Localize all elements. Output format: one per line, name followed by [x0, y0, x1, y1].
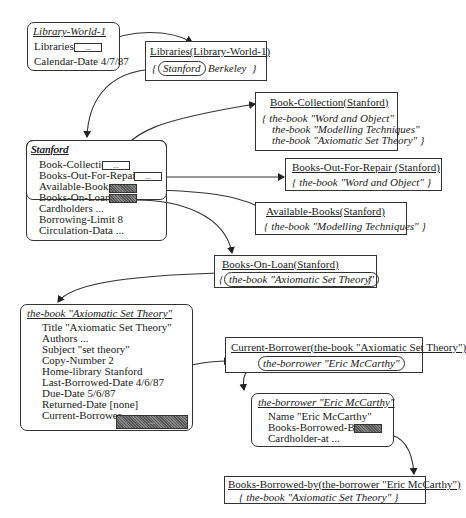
books-borrowed-by-pointer[interactable] — [354, 424, 382, 433]
current-borrower-pointer[interactable]: ... — [116, 415, 188, 429]
libraries-collection: Libraries(Library-World-1) { Stanford Be… — [145, 41, 267, 81]
collection-title: Books-Out-For-Repair (Stanford) — [292, 161, 440, 173]
borrower-frame: the-borrower "Eric McCarthy" Name "Eric … — [251, 393, 394, 447]
library-world-frame: Library-World-1 Libraries ... Calendar-D… — [27, 22, 120, 71]
frame-title: the-borrower "Eric McCarthy" — [258, 396, 395, 408]
collection-title: Book-Collection(Stanford) — [270, 96, 389, 108]
collection-item[interactable]: the-borrower "Eric McCarthy" — [258, 356, 405, 371]
slot-libraries: Libraries — [34, 40, 74, 53]
libraries-pointer[interactable]: ... — [74, 43, 102, 52]
books-on-loan-box: Books-On-Loan(Stanford) { the-book "Axio… — [214, 255, 377, 288]
collection-title: Books-Borrowed-by(the-borrower "Eric McC… — [228, 478, 461, 490]
collection-item-berkeley[interactable]: Berkeley — [208, 62, 246, 75]
book-frame: the-book "Axiomatic Set Theory" Title "A… — [20, 304, 193, 431]
collection-item[interactable]: the-book "Axiomatic Set Theory" } — [272, 134, 424, 147]
available-books-pointer[interactable] — [109, 184, 137, 193]
collection-item-stanford[interactable]: Stanford — [158, 61, 206, 76]
collection-title: Libraries(Library-World-1) — [150, 45, 270, 57]
close-brace: } — [367, 273, 371, 286]
slot-calendar-date: Calendar-Date 4/7/87 — [34, 55, 129, 68]
books-out-for-repair-box: Books-Out-For-Repair (Stanford) { the-bo… — [285, 158, 442, 191]
available-books-box: Available-Books(Stanford) { the-book "Mo… — [255, 202, 407, 235]
frame-title: the-book "Axiomatic Set Theory" — [27, 307, 172, 319]
books-on-loan-pointer[interactable] — [109, 194, 137, 203]
slot-current-borrower: Current-Borrower — [42, 409, 121, 422]
slot-circulation-data: Circulation-Data ... — [39, 224, 124, 237]
collection-item[interactable]: the-book "Axiomatic Set Theory" — [224, 272, 379, 287]
slot-cardholder-at: Cardholder-at ... — [268, 432, 340, 445]
collection-title: Books-On-Loan(Stanford) — [222, 258, 339, 270]
collection-title: Available-Books(Stanford) — [266, 205, 385, 217]
open-brace: { — [219, 273, 223, 286]
repair-pointer[interactable]: ... — [134, 172, 162, 181]
stanford-frame-body: Stanford Book-Collection ... Books-Out-F… — [26, 140, 167, 241]
open-brace: { — [152, 62, 156, 75]
frame-title: Stanford — [31, 143, 69, 155]
books-borrowed-by-box: Books-Borrowed-by(the-borrower "Eric McC… — [224, 476, 426, 504]
book-collection-box: Book-Collection(Stanford) { the-book "Wo… — [255, 92, 398, 151]
current-borrower-box: Current-Borrower(the-book "Axiomatic Set… — [225, 337, 423, 373]
collection-item[interactable]: { the-book "Axiomatic Set Theory" } — [239, 491, 398, 504]
collection-title: Current-Borrower(the-book "Axiomatic Set… — [231, 341, 466, 353]
collection-item[interactable]: { the-book "Modelling Techniques" } — [264, 220, 426, 233]
close-brace: } — [252, 62, 256, 75]
frame-title: Library-World-1 — [33, 25, 106, 37]
collection-item[interactable]: { the-book "Word and Object" } — [292, 176, 431, 189]
